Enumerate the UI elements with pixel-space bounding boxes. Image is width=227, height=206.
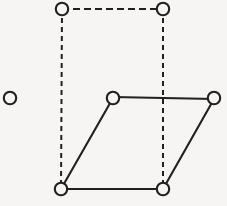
rectangle-left-edge	[61, 9, 62, 189]
isolated-node	[4, 92, 16, 104]
figure-diagram	[0, 0, 227, 206]
para-top-left-node	[107, 92, 119, 104]
parallelogram-left-edge	[61, 98, 113, 189]
figure-canvas	[0, 0, 227, 206]
shared-bottom-left-node	[55, 183, 67, 195]
para-top-right-node	[208, 92, 220, 104]
rect-top-left-node	[56, 3, 68, 15]
shared-bottom-right-node	[157, 183, 169, 195]
parallelogram-top-edge	[113, 97, 214, 99]
parallelogram-right-edge	[163, 99, 214, 189]
rect-top-right-node	[157, 3, 169, 15]
